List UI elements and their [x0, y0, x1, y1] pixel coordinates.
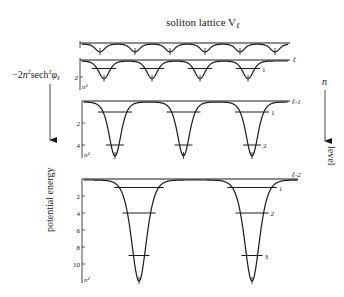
soliton-lattice-diagram: soliton lattice Vℓ −2n2sech2φℓ potential…: [0, 0, 344, 297]
axis-tick-label: 4: [77, 142, 81, 150]
level-n-symbol: n: [322, 76, 327, 87]
axis-tick-label: 2: [77, 120, 81, 128]
axis-unit-label: n²: [84, 151, 91, 159]
axis-unit-label: n²: [84, 276, 91, 284]
panels-group: 12n²ℓ1224n²ℓ-1123246810n²ℓ-2: [73, 41, 301, 284]
panel-l-1: 1224n²ℓ-1: [77, 98, 301, 159]
potential-energy-label: potential energy: [44, 167, 55, 232]
potential-curve: [82, 61, 288, 79]
energy-level-label: 1: [271, 109, 275, 117]
panel-label: ℓ-2: [291, 171, 301, 179]
panel-l: 12n²ℓ: [75, 56, 297, 91]
axis-unit-label: n²: [82, 83, 89, 91]
energy-level-label: 2: [271, 210, 275, 218]
energy-level-label: 1: [262, 66, 266, 74]
axis-tick-label: 10: [73, 261, 81, 269]
axis-tick-label: 4: [77, 210, 81, 218]
axis-tick-label: 6: [77, 227, 81, 235]
energy-level-label: 2: [263, 142, 267, 150]
axis-tick-label: 2: [75, 74, 79, 82]
panel-label: ℓ-1: [291, 98, 301, 106]
panel-l-2: 123246810n²ℓ-2: [73, 171, 301, 284]
potential-curve: [84, 102, 288, 156]
panel-label: ℓ: [292, 56, 296, 64]
left-formula-label: −2n2sech2φℓ: [12, 69, 60, 81]
potential-curve: [84, 180, 298, 281]
diagram-title: soliton lattice Vℓ: [166, 16, 240, 30]
axis-tick-label: 2: [77, 193, 81, 201]
energy-level-label: 3: [265, 253, 269, 261]
axis-tick-label: 8: [77, 244, 81, 252]
energy-level-label: 1: [279, 185, 283, 193]
panel-top: [80, 41, 290, 55]
level-label: level: [326, 146, 337, 166]
potential-curve: [82, 44, 288, 52]
